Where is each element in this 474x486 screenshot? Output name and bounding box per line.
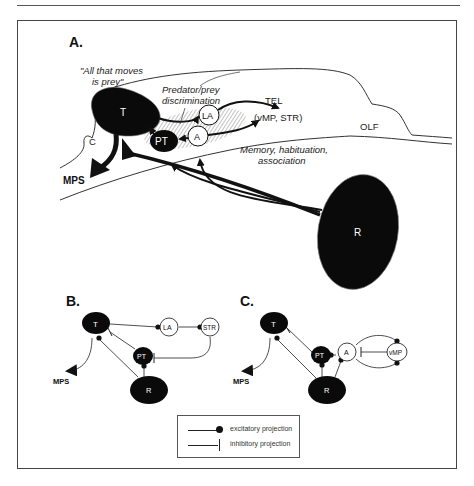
b-node-t-label: T (93, 320, 98, 329)
annotation-all-that-moves-1: "All that moves (80, 65, 143, 76)
panel-c-label: C. (240, 293, 254, 309)
b-node-str-label: STR (203, 324, 216, 331)
b-excitatory-dot (96, 335, 101, 340)
panel-a-label: A. (69, 34, 83, 50)
inhibitory-bar-icon (219, 439, 220, 451)
legend-inhibitory: inhibitory projection (188, 438, 298, 452)
panel-b-label: B. (66, 293, 80, 309)
c-a-to-vmp-upper-edge (356, 335, 397, 345)
b-node-la-label: LA (163, 324, 172, 331)
b-t-to-mps-edge (68, 338, 92, 371)
b-node-pt-label: PT (137, 353, 147, 360)
annotation-memory-1: Memory, habituation, (240, 144, 328, 155)
a-to-pt-arrow (180, 138, 188, 139)
b-r-to-t-edge (99, 339, 138, 377)
excitatory-dot-icon (216, 426, 223, 433)
annotation-tel-sub: (vMP, STR) (254, 112, 302, 123)
panel-a: A. C T MPS R PT A (60, 34, 452, 296)
annotation-predator-1: Predator/prey (162, 84, 221, 95)
node-c-label: C (89, 136, 96, 147)
legend-excitatory-line (188, 430, 218, 431)
node-t-label: T (120, 107, 126, 118)
c-node-pt-label: PT (315, 352, 325, 359)
legend-inhibitory-line (188, 445, 218, 446)
figure-diagram: A. C T MPS R PT A (0, 0, 474, 486)
node-r-label: R (354, 227, 361, 238)
b-mps-label: MPS (53, 377, 69, 386)
c-pt-to-t-edge (287, 328, 312, 352)
c-mps-label: MPS (233, 377, 249, 386)
c-node-r-label: R (324, 386, 330, 395)
c-r-to-a-edge (335, 361, 341, 377)
legend-excitatory-label: excitatory projection (230, 425, 292, 432)
b-inhibitory-bar (108, 328, 112, 336)
mps-label-a: MPS (63, 175, 85, 186)
annotation-olf: OLF (360, 121, 379, 132)
legend-excitatory: excitatory projection (188, 423, 298, 437)
b-pt-to-t-edge (110, 332, 135, 349)
annotation-all-that-moves-2: is prey" (92, 76, 124, 87)
panel-b: B. T LA STR PT R MPS (53, 293, 219, 404)
node-la-label: LA (202, 111, 213, 121)
r-to-t-arrowhead (122, 138, 136, 160)
c-node-vmp-label: vMP (389, 349, 402, 356)
legend: excitatory projection inhibitory project… (177, 415, 300, 458)
legend-inhibitory-label: inhibitory projection (230, 440, 290, 447)
c-node-t-label: T (271, 320, 276, 329)
c-t-to-mps-edge (244, 338, 270, 371)
annotation-predator-2: discrimination (162, 95, 220, 106)
b-str-to-pt-edge (154, 337, 210, 358)
c-node-a-label: A (344, 349, 349, 356)
panel-c: C. T PT A vMP R MPS (233, 293, 407, 404)
c-a-to-vmp-lower-edge (356, 359, 397, 368)
node-a-label: A (194, 132, 200, 142)
node-pt-label: PT (155, 136, 168, 147)
c-excitatory-dot (274, 335, 279, 340)
annotation-tel: TEL (265, 95, 282, 106)
t-to-mps-arrow (100, 134, 116, 168)
b-node-r-label: R (146, 386, 152, 395)
c-r-to-t-edge (277, 339, 316, 378)
annotation-memory-2: association (258, 155, 306, 166)
b-t-to-la-edge (110, 324, 158, 327)
